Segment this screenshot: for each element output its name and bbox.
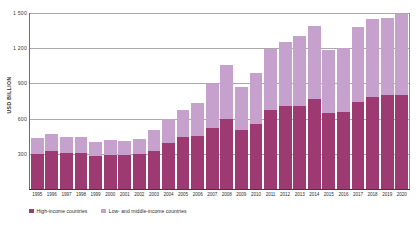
bar-column[interactable] bbox=[190, 13, 205, 189]
bar-segment-low-middle-income[interactable] bbox=[352, 27, 365, 102]
bar-segment-high-income[interactable] bbox=[279, 106, 292, 189]
bar-segment-high-income[interactable] bbox=[45, 151, 58, 189]
bar-column[interactable] bbox=[161, 13, 176, 189]
x-tick-label: 2014 bbox=[307, 192, 322, 197]
x-tick-label: 2013 bbox=[292, 192, 307, 197]
x-axis-tick-labels: 1995199619971998199920002001200220032004… bbox=[30, 192, 409, 197]
bar-segment-high-income[interactable] bbox=[264, 110, 277, 189]
bar-segment-low-middle-income[interactable] bbox=[235, 87, 248, 130]
x-tick-label: 2004 bbox=[161, 192, 176, 197]
bar-segment-high-income[interactable] bbox=[352, 102, 365, 189]
bar-column[interactable] bbox=[249, 13, 264, 189]
bar-segment-low-middle-income[interactable] bbox=[148, 130, 161, 151]
bar-segment-high-income[interactable] bbox=[177, 137, 190, 189]
bar-column[interactable] bbox=[88, 13, 103, 189]
bar-segment-high-income[interactable] bbox=[148, 151, 161, 189]
bar-column[interactable] bbox=[30, 13, 45, 189]
bar-segment-low-middle-income[interactable] bbox=[31, 138, 44, 154]
bar-column[interactable] bbox=[132, 13, 147, 189]
bar-segment-high-income[interactable] bbox=[206, 128, 219, 189]
y-tick-1500: 1 500 bbox=[1, 10, 27, 16]
bar-segment-low-middle-income[interactable] bbox=[191, 103, 204, 135]
bar-column[interactable] bbox=[45, 13, 60, 189]
bar-segment-low-middle-income[interactable] bbox=[206, 84, 219, 128]
bar-segment-low-middle-income[interactable] bbox=[366, 19, 379, 97]
bar-column[interactable] bbox=[147, 13, 162, 189]
bar-column[interactable] bbox=[380, 13, 395, 189]
bar-column[interactable] bbox=[220, 13, 235, 189]
bar-segment-high-income[interactable] bbox=[308, 99, 321, 189]
y-axis-tick-labels: 1 500 1 200 900 600 300 bbox=[0, 0, 27, 226]
bar-series-container bbox=[30, 13, 409, 189]
bar-segment-high-income[interactable] bbox=[293, 106, 306, 189]
bar-column[interactable] bbox=[263, 13, 278, 189]
bar-segment-high-income[interactable] bbox=[395, 95, 408, 189]
bar-column[interactable] bbox=[292, 13, 307, 189]
x-tick-label: 1995 bbox=[30, 192, 45, 197]
bar-segment-low-middle-income[interactable] bbox=[118, 141, 131, 156]
bar-segment-low-middle-income[interactable] bbox=[89, 142, 102, 155]
x-tick-label: 2016 bbox=[336, 192, 351, 197]
bar-segment-low-middle-income[interactable] bbox=[75, 137, 88, 153]
bar-segment-low-middle-income[interactable] bbox=[250, 73, 263, 123]
bar-segment-high-income[interactable] bbox=[250, 124, 263, 189]
bar-column[interactable] bbox=[117, 13, 132, 189]
bar-segment-low-middle-income[interactable] bbox=[293, 36, 306, 105]
bar-column[interactable] bbox=[278, 13, 293, 189]
bar-segment-high-income[interactable] bbox=[75, 153, 88, 189]
x-tick-label: 2009 bbox=[234, 192, 249, 197]
x-tick-label: 2020 bbox=[394, 192, 409, 197]
bar-segment-high-income[interactable] bbox=[337, 112, 350, 189]
bar-segment-high-income[interactable] bbox=[118, 155, 131, 189]
bar-segment-low-middle-income[interactable] bbox=[177, 110, 190, 136]
x-tick-label: 2018 bbox=[365, 192, 380, 197]
x-tick-label: 2007 bbox=[205, 192, 220, 197]
bar-column[interactable] bbox=[205, 13, 220, 189]
bar-column[interactable] bbox=[74, 13, 89, 189]
bar-column[interactable] bbox=[351, 13, 366, 189]
bar-segment-high-income[interactable] bbox=[104, 155, 117, 189]
bar-segment-low-middle-income[interactable] bbox=[162, 119, 175, 143]
bar-segment-high-income[interactable] bbox=[31, 154, 44, 189]
legend-label-low-middle-income: Low- and middle-income countries bbox=[109, 208, 187, 214]
x-tick-label: 2019 bbox=[380, 192, 395, 197]
x-tick-label: 2005 bbox=[176, 192, 191, 197]
x-tick-label: 2008 bbox=[220, 192, 235, 197]
bar-segment-low-middle-income[interactable] bbox=[104, 140, 117, 155]
bar-column[interactable] bbox=[307, 13, 322, 189]
bar-segment-low-middle-income[interactable] bbox=[45, 134, 58, 152]
bar-segment-high-income[interactable] bbox=[191, 136, 204, 189]
legend-label-high-income: High-income countries bbox=[37, 208, 88, 214]
bar-column[interactable] bbox=[59, 13, 74, 189]
bar-segment-high-income[interactable] bbox=[322, 113, 335, 189]
bar-segment-low-middle-income[interactable] bbox=[308, 26, 321, 99]
x-tick-label: 1997 bbox=[59, 192, 74, 197]
bar-column[interactable] bbox=[322, 13, 337, 189]
bar-segment-low-middle-income[interactable] bbox=[279, 42, 292, 106]
bar-segment-low-middle-income[interactable] bbox=[60, 137, 73, 153]
bar-segment-low-middle-income[interactable] bbox=[220, 65, 233, 119]
bar-column[interactable] bbox=[176, 13, 191, 189]
bar-segment-low-middle-income[interactable] bbox=[395, 14, 408, 94]
bar-column[interactable] bbox=[103, 13, 118, 189]
y-tick-600: 600 bbox=[1, 116, 27, 122]
bar-column[interactable] bbox=[365, 13, 380, 189]
bar-segment-high-income[interactable] bbox=[60, 153, 73, 189]
bar-segment-high-income[interactable] bbox=[381, 95, 394, 189]
bar-column[interactable] bbox=[336, 13, 351, 189]
bar-segment-low-middle-income[interactable] bbox=[337, 48, 350, 112]
bar-column[interactable] bbox=[234, 13, 249, 189]
bar-segment-low-middle-income[interactable] bbox=[322, 50, 335, 113]
bar-segment-high-income[interactable] bbox=[89, 156, 102, 189]
bar-segment-low-middle-income[interactable] bbox=[264, 49, 277, 110]
bar-segment-high-income[interactable] bbox=[366, 97, 379, 189]
bar-segment-high-income[interactable] bbox=[220, 119, 233, 189]
bar-segment-high-income[interactable] bbox=[162, 143, 175, 189]
bar-segment-high-income[interactable] bbox=[133, 154, 146, 189]
legend-item-high-income[interactable]: High-income countries bbox=[29, 208, 87, 214]
bar-segment-low-middle-income[interactable] bbox=[381, 18, 394, 95]
bar-segment-high-income[interactable] bbox=[235, 130, 248, 189]
bar-column[interactable] bbox=[394, 13, 409, 189]
bar-segment-low-middle-income[interactable] bbox=[133, 139, 146, 154]
legend-item-low-middle-income[interactable]: Low- and middle-income countries bbox=[101, 208, 186, 214]
